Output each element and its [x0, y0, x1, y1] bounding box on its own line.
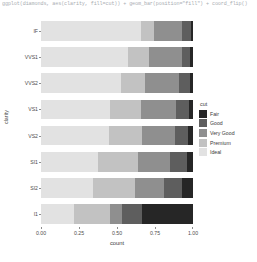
x-tick-mark	[117, 227, 118, 229]
bar-row	[41, 126, 193, 146]
bar-segment	[135, 178, 164, 198]
x-axis: 0.000.250.500.751.00	[41, 227, 193, 241]
bar-segment	[190, 73, 193, 93]
legend-label: Ideal	[210, 149, 221, 155]
bar-segment	[41, 47, 128, 67]
y-tick-label: SI2	[30, 185, 38, 191]
console-code-line: ggplot(diamonds, aes(clarity, fill=cut))…	[2, 0, 255, 9]
bar-segment	[188, 126, 193, 146]
legend-label: Good	[210, 120, 223, 126]
bar-segment	[41, 100, 110, 120]
x-tick-label: 0.00	[36, 230, 46, 236]
bar-segment	[182, 21, 191, 41]
y-axis: IFVVS1VVS2VS1VS2SI1SI2I1	[0, 18, 41, 227]
bar-segment	[128, 47, 149, 67]
bar-segment	[176, 100, 190, 120]
legend-item: Ideal	[199, 147, 257, 157]
chart-figure: clarity IFVVS1VVS2VS1VS2SI1SI2I1 0.000.2…	[0, 9, 257, 262]
bar-segment	[190, 47, 193, 67]
legend-label: Fair	[210, 111, 219, 117]
plot-panel	[41, 18, 193, 227]
y-tick-label: IF	[33, 28, 38, 34]
bar-segment	[41, 178, 93, 198]
legend-title: cut	[199, 101, 257, 107]
legend-swatch	[199, 110, 207, 118]
bar-segment	[41, 73, 121, 93]
legend-swatch	[199, 129, 207, 137]
x-tick-label: 0.50	[112, 230, 122, 236]
legend-swatch	[199, 139, 207, 147]
legend-items: FairGoodVery GoodPremiumIdeal	[199, 109, 257, 157]
bar-segment	[142, 204, 193, 224]
bar-row	[41, 204, 193, 224]
y-tick-label: I1	[34, 211, 38, 217]
bar-segment	[41, 152, 98, 172]
bar-segment	[164, 178, 182, 198]
bar-segment	[138, 152, 171, 172]
bar-segment	[74, 204, 110, 224]
x-tick-label: 0.75	[150, 230, 160, 236]
y-tick-label: VS1	[28, 106, 38, 112]
x-tick-mark	[41, 227, 42, 229]
bar-row	[41, 152, 193, 172]
legend-item: Good	[199, 119, 257, 129]
bar-row	[41, 47, 193, 67]
bar-segment	[141, 100, 175, 120]
bar-segment	[121, 73, 145, 93]
bar-segment	[175, 126, 189, 146]
x-tick-mark	[79, 227, 80, 229]
bar-segment	[110, 100, 141, 120]
legend-item: Premium	[199, 138, 257, 148]
bar-segment	[179, 73, 190, 93]
bar-segment	[109, 126, 142, 146]
bar-row	[41, 73, 193, 93]
x-tick-mark	[155, 227, 156, 229]
legend-label: Very Good	[210, 130, 235, 136]
bar-segment	[145, 73, 178, 93]
bar-segment	[191, 21, 193, 41]
x-tick-label: 0.25	[74, 230, 84, 236]
bar-segment	[41, 126, 109, 146]
legend-label: Premium	[210, 140, 231, 146]
bar-row	[41, 21, 193, 41]
bar-segment	[149, 47, 182, 67]
bar-segment	[93, 178, 135, 198]
y-tick-label: VVS2	[25, 80, 38, 86]
y-tick-label: VS2	[28, 133, 38, 139]
bar-segment	[41, 204, 74, 224]
x-tick-label: 1.00	[188, 230, 198, 236]
legend-item: Very Good	[199, 128, 257, 138]
legend: cut FairGoodVery GoodPremiumIdeal	[199, 101, 257, 157]
legend-swatch	[199, 148, 207, 156]
bar-row	[41, 100, 193, 120]
bar-segment	[187, 152, 193, 172]
x-axis-title: count	[41, 240, 193, 246]
bar-row	[41, 178, 193, 198]
bar-segment	[98, 152, 138, 172]
y-tick-label: VVS1	[25, 54, 38, 60]
bar-segment	[170, 152, 187, 172]
bar-segment	[189, 100, 193, 120]
legend-swatch	[199, 119, 207, 127]
bar-segment	[182, 178, 193, 198]
bar-segment	[182, 47, 190, 67]
bar-segment	[154, 21, 181, 41]
x-tick-mark	[192, 227, 193, 229]
bar-segment	[141, 21, 155, 41]
bar-segment	[122, 204, 142, 224]
bar-segment	[110, 204, 122, 224]
bar-segment	[142, 126, 175, 146]
legend-item: Fair	[199, 109, 257, 119]
y-tick-label: SI1	[30, 159, 38, 165]
bar-segment	[41, 21, 141, 41]
